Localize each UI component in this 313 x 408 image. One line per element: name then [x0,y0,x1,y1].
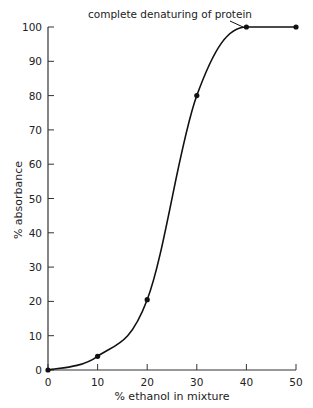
x-tick-label: 50 [289,376,302,388]
y-tick-label: 90 [29,55,42,67]
annotation-label: complete denaturing of protein [88,8,252,20]
series-line [48,27,296,370]
ticks: 010203040500102030405060708090100 [22,21,303,388]
y-tick-label: 80 [29,90,42,102]
chart: 010203040500102030405060708090100 % etha… [0,0,313,408]
x-tick-label: 40 [240,376,253,388]
y-tick-label: 50 [29,193,42,205]
y-tick-label: 100 [22,21,42,33]
x-tick-label: 30 [190,376,203,388]
data-point [194,93,199,98]
x-axis-label: % ethanol in mixture [114,390,229,403]
y-tick-label: 40 [29,227,42,239]
y-tick-label: 0 [35,364,42,376]
data-point [45,367,50,372]
y-tick-label: 10 [29,330,42,342]
data-point [244,24,249,29]
y-tick-label: 20 [29,295,42,307]
data-point [145,297,150,302]
x-tick-label: 20 [141,376,154,388]
x-tick-label: 10 [91,376,104,388]
data-point [293,24,298,29]
data-point [95,354,100,359]
y-tick-label: 60 [29,158,42,170]
y-tick-label: 70 [29,124,42,136]
annotation-leader [230,21,243,27]
y-axis-label: % absorbance [12,161,25,239]
x-tick-label: 0 [45,376,52,388]
y-tick-label: 30 [29,261,42,273]
